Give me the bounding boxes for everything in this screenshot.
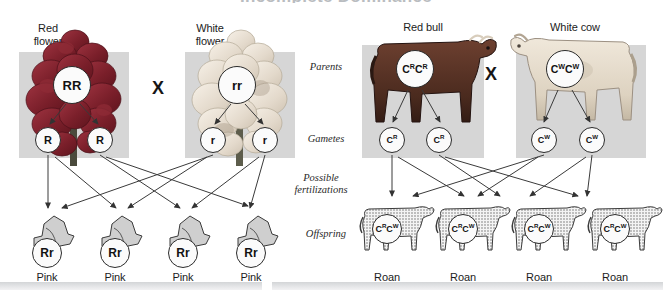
left-parent-genotype-RR: RR — [53, 66, 91, 104]
left-gamete-r-1: r — [200, 127, 226, 153]
right-offspring-genotype-2: CRCW — [448, 214, 478, 244]
right-offspring-genotype-1: CRCW — [372, 214, 402, 244]
left-gamete-R-1: R — [35, 127, 61, 153]
stage-label-offspring: Offspring — [291, 228, 361, 240]
left-offspring-genotype-3: Rr — [168, 238, 198, 268]
right-parent-genotype-CWCW: CWCW — [546, 50, 584, 88]
cattle-panel: Red bull White cow X CRCR CWCW CR CR CW … — [355, 0, 663, 282]
right-offspring-genotype-4: CRCW — [600, 214, 630, 244]
right-gamete-CR-2: CR — [426, 127, 452, 153]
left-gamete-r-2: r — [252, 127, 278, 153]
bottom-band-left — [0, 282, 262, 290]
left-offspring-genotype-4: Rr — [236, 238, 266, 268]
right-gamete-CW-2: CW — [579, 127, 605, 153]
left-offspring-genotype-2: Rr — [100, 238, 130, 268]
right-gamete-CR-1: CR — [379, 127, 405, 153]
stage-label-possible-fertilizations: Possible fertilizations — [286, 172, 356, 195]
right-parent-genotype-CRCR: CRCR — [396, 50, 434, 88]
red-bull-image — [362, 26, 502, 130]
bottom-band-right — [272, 282, 663, 290]
right-offspring-genotype-3: CRCW — [524, 214, 554, 244]
left-offspring-genotype-1: Rr — [32, 238, 62, 268]
genetics-diagram: Incomplete Dominance — [0, 0, 663, 290]
snapdragon-panel: Red flower White flower X RR rr R R r r — [0, 0, 332, 282]
left-cross-symbol: X — [152, 78, 164, 99]
left-parent-genotype-rr: rr — [218, 66, 256, 104]
right-gamete-CW-1: CW — [531, 127, 557, 153]
left-gamete-R-2: R — [87, 127, 113, 153]
